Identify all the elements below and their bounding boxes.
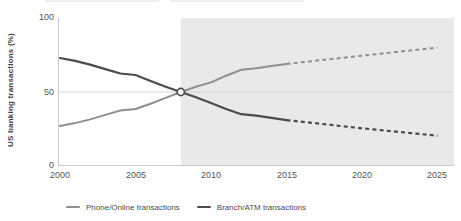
legend-label-branch-atm: Branch/ATM transactions: [217, 203, 306, 212]
x-tick-2000: 2000: [42, 170, 78, 180]
banking-transactions-chart: US banking transactions (%) 100 50 0 200…: [0, 0, 461, 221]
x-tick-2005: 2005: [118, 170, 154, 180]
plot-area: [0, 0, 461, 221]
x-tick-2025: 2025: [419, 170, 455, 180]
legend: Phone/Online transactions Branch/ATM tra…: [66, 201, 306, 213]
x-tick-2010: 2010: [193, 170, 229, 180]
x-tick-2020: 2020: [344, 170, 380, 180]
phone-online-line-swatch: [66, 206, 80, 208]
x-tick-2015: 2015: [269, 170, 305, 180]
legend-item-phone-online: Phone/Online transactions: [66, 203, 180, 212]
crossover-marker: [177, 88, 184, 95]
branch-atm-line-swatch: [197, 206, 211, 208]
legend-label-phone-online: Phone/Online transactions: [86, 203, 180, 212]
legend-item-branch-atm: Branch/ATM transactions: [197, 203, 306, 212]
